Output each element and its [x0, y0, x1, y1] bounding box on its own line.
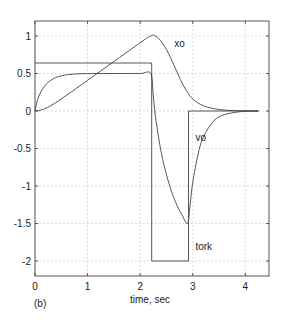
series-vo — [35, 72, 259, 224]
x-tick-label: 2 — [137, 281, 143, 292]
y-tick-label: 0.5 — [17, 68, 31, 79]
x-tick-label: 0 — [32, 281, 38, 292]
y-tick-label: -0.5 — [14, 143, 32, 154]
y-tick-label: 1 — [25, 31, 31, 42]
series-label-vo: vo — [195, 132, 206, 143]
y-tick-label: -1 — [22, 181, 31, 192]
series-layer — [35, 35, 259, 261]
x-tick-label: 1 — [85, 281, 91, 292]
x-tick-label: 4 — [243, 281, 249, 292]
series-xo — [35, 35, 259, 111]
chart: 0123410.50-0.5-1-1.5-2 xovotork time, se… — [0, 0, 285, 324]
series-label-tork: tork — [195, 241, 213, 252]
panel-label: (b) — [34, 298, 46, 309]
series-labels: xovotork — [174, 38, 213, 252]
x-tick-label: 3 — [190, 281, 196, 292]
series-label-xo: xo — [174, 38, 185, 49]
ticks: 0123410.50-0.5-1-1.5-2 — [14, 21, 269, 292]
y-tick-label: 0 — [25, 106, 31, 117]
y-tick-label: -2 — [22, 256, 31, 267]
series-tork — [35, 63, 259, 261]
x-axis-label: time, sec — [130, 294, 170, 305]
y-tick-label: -1.5 — [14, 218, 32, 229]
